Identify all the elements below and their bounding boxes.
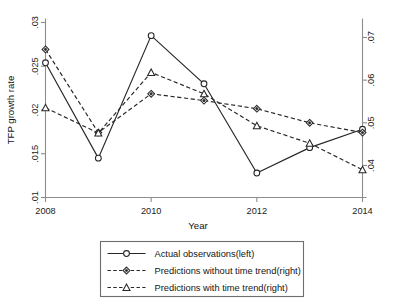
series-2-point [253, 122, 260, 128]
series-2-point [359, 166, 366, 172]
series-1-point-center [203, 100, 205, 102]
legend-label-1: Predictions without time trend(right) [155, 266, 301, 276]
series-0-point [201, 81, 207, 87]
y-axis-title: TFP growth rate [5, 76, 16, 145]
chart-canvas: .01.015.02.025.03.04.05.06.0720082010201… [0, 0, 401, 308]
series-1-point-center [44, 48, 46, 50]
x-tick-label: 2012 [247, 206, 267, 216]
x-axis-title: Year [188, 220, 208, 231]
series-0-point [95, 155, 101, 161]
series-2-point [306, 140, 313, 146]
y-tick-label-right: .04 [367, 159, 377, 172]
series-1-point-center [150, 93, 152, 95]
x-tick-label: 2010 [141, 206, 161, 216]
x-tick-label: 2014 [352, 206, 372, 216]
series-0-point [148, 33, 154, 39]
plot-layer: .01.015.02.025.03.04.05.06.0720082010201… [5, 16, 377, 296]
series-2-point [201, 90, 208, 96]
series-2-point [148, 69, 155, 75]
x-tick-label: 2008 [35, 206, 55, 216]
y-tick-label-right: .07 [367, 31, 377, 44]
legend-label-0: Actual observations(left) [155, 249, 255, 259]
y-tick-label-left: .02 [30, 104, 40, 117]
y-tick-label-right: .05 [367, 116, 377, 129]
y-tick-label-left: .03 [30, 16, 40, 29]
legend-marker-circle [124, 251, 130, 257]
y-tick-label-left: .01 [30, 191, 40, 204]
legend-label-2: Predictions with time trend(right) [155, 283, 288, 293]
series-1-point-center [256, 108, 258, 110]
y-tick-label-left: .025 [30, 57, 40, 75]
series-0-point [43, 60, 49, 66]
series-1-point-center [309, 122, 311, 124]
series-0-point [254, 170, 260, 176]
series-2-point [42, 104, 49, 110]
chart-figure: .01.015.02.025.03.04.05.06.0720082010201… [0, 0, 401, 308]
series-1-point-center [361, 132, 363, 134]
y-tick-label-left: .015 [30, 145, 40, 163]
legend-marker-diamond-center [125, 269, 127, 271]
y-tick-label-right: .06 [367, 74, 377, 87]
